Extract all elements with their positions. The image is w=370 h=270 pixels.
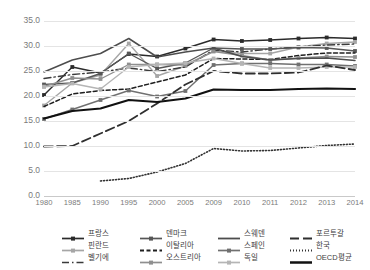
legend-item[interactable]: 스웨덴	[218, 228, 265, 239]
legend-swatch-icon	[140, 253, 162, 262]
legend-label: OECD평균	[316, 253, 352, 262]
legend-item[interactable]: 프랑스	[62, 228, 109, 239]
series-marker	[240, 39, 244, 43]
legend-label: 프랑스	[88, 229, 109, 238]
series-marker	[212, 38, 216, 42]
legend-label: 스웨덴	[244, 229, 265, 238]
chart-legend: 프랑스핀란드벨기에덴마크이탈리아오스트리아스웨덴스페인독일포르투갈한국OECD평…	[0, 228, 370, 268]
legend-item[interactable]: 포르투갈	[290, 228, 352, 239]
legend-swatch-icon	[290, 229, 312, 238]
series-marker	[42, 85, 46, 89]
series-marker	[99, 98, 103, 102]
legend-swatch-icon	[290, 241, 312, 250]
legend-label: 오스트리아	[166, 253, 201, 262]
gridline	[44, 46, 355, 47]
legend-item[interactable]: 오스트리아	[140, 252, 201, 263]
legend-item[interactable]: 벨기에	[62, 252, 109, 263]
legend-label: 이탈리아	[166, 241, 194, 250]
legend-column: 프랑스핀란드벨기에	[62, 228, 109, 264]
gridline	[44, 71, 355, 72]
legend-item[interactable]: 스페인	[218, 240, 265, 251]
series-marker	[297, 66, 301, 70]
series-marker	[212, 57, 216, 61]
series-marker	[184, 89, 188, 93]
legend-item[interactable]: 한국	[290, 240, 352, 251]
legend-item[interactable]: OECD평균	[290, 252, 352, 263]
legend-swatch-icon	[218, 253, 240, 262]
series-marker	[184, 47, 188, 51]
series-marker	[184, 61, 188, 65]
series-marker	[268, 62, 272, 66]
legend-swatch-icon	[218, 229, 240, 238]
series-marker	[70, 82, 74, 86]
series-marker	[268, 52, 272, 56]
series-marker	[268, 47, 272, 51]
series-marker	[70, 65, 74, 69]
legend-swatch-icon	[140, 241, 162, 250]
legend-swatch-icon	[62, 241, 84, 250]
series-marker	[70, 76, 74, 80]
series-marker	[99, 77, 103, 81]
legend-label: 독일	[244, 253, 258, 262]
legend-swatch-icon	[140, 229, 162, 238]
series-line	[44, 59, 355, 90]
legend-swatch-icon	[62, 253, 84, 262]
legend-column: 스웨덴스페인독일	[218, 228, 265, 264]
series-marker	[127, 89, 131, 93]
series-marker	[297, 37, 301, 41]
series-marker	[155, 74, 159, 78]
series-line	[44, 52, 355, 87]
legend-swatch-icon	[290, 253, 312, 262]
legend-label: 스페인	[244, 241, 265, 250]
legend-item[interactable]: 덴마크	[140, 228, 201, 239]
series-marker	[99, 87, 103, 91]
gridline	[44, 146, 355, 147]
series-marker	[240, 47, 244, 51]
gridline	[44, 196, 355, 197]
gridline	[44, 121, 355, 122]
legend-label: 덴마크	[166, 229, 187, 238]
legend-label: 벨기에	[88, 253, 109, 262]
gridline	[44, 21, 355, 22]
legend-swatch-icon	[62, 229, 84, 238]
legend-column: 포르투갈한국OECD평균	[290, 228, 352, 264]
series-marker	[155, 63, 159, 67]
series-marker	[155, 67, 159, 71]
series-marker	[127, 65, 131, 69]
legend-item[interactable]: 독일	[218, 252, 265, 263]
legend-item[interactable]: 핀란드	[62, 240, 109, 251]
gridline	[44, 171, 355, 172]
legend-label: 핀란드	[88, 241, 109, 250]
legend-swatch-icon	[218, 241, 240, 250]
series-marker	[212, 63, 216, 67]
gridline	[44, 96, 355, 97]
series-marker	[353, 37, 357, 41]
line-chart: 0.05.010.015.020.025.030.035.0 198019851…	[0, 0, 370, 270]
series-marker	[353, 55, 357, 59]
series-marker	[240, 62, 244, 66]
series-marker	[268, 38, 272, 42]
series-marker	[268, 66, 272, 70]
series-marker	[353, 65, 357, 69]
series-marker	[127, 42, 131, 46]
legend-label: 한국	[316, 241, 330, 250]
series-marker	[297, 63, 301, 67]
series-marker	[212, 50, 216, 54]
series-marker	[353, 40, 357, 44]
legend-column: 덴마크이탈리아오스트리아	[140, 228, 201, 264]
series-line	[101, 144, 356, 181]
series-marker	[325, 36, 329, 40]
series-marker	[127, 52, 131, 56]
legend-label: 포르투갈	[316, 229, 344, 238]
series-marker	[99, 72, 103, 76]
legend-item[interactable]: 이탈리아	[140, 240, 201, 251]
